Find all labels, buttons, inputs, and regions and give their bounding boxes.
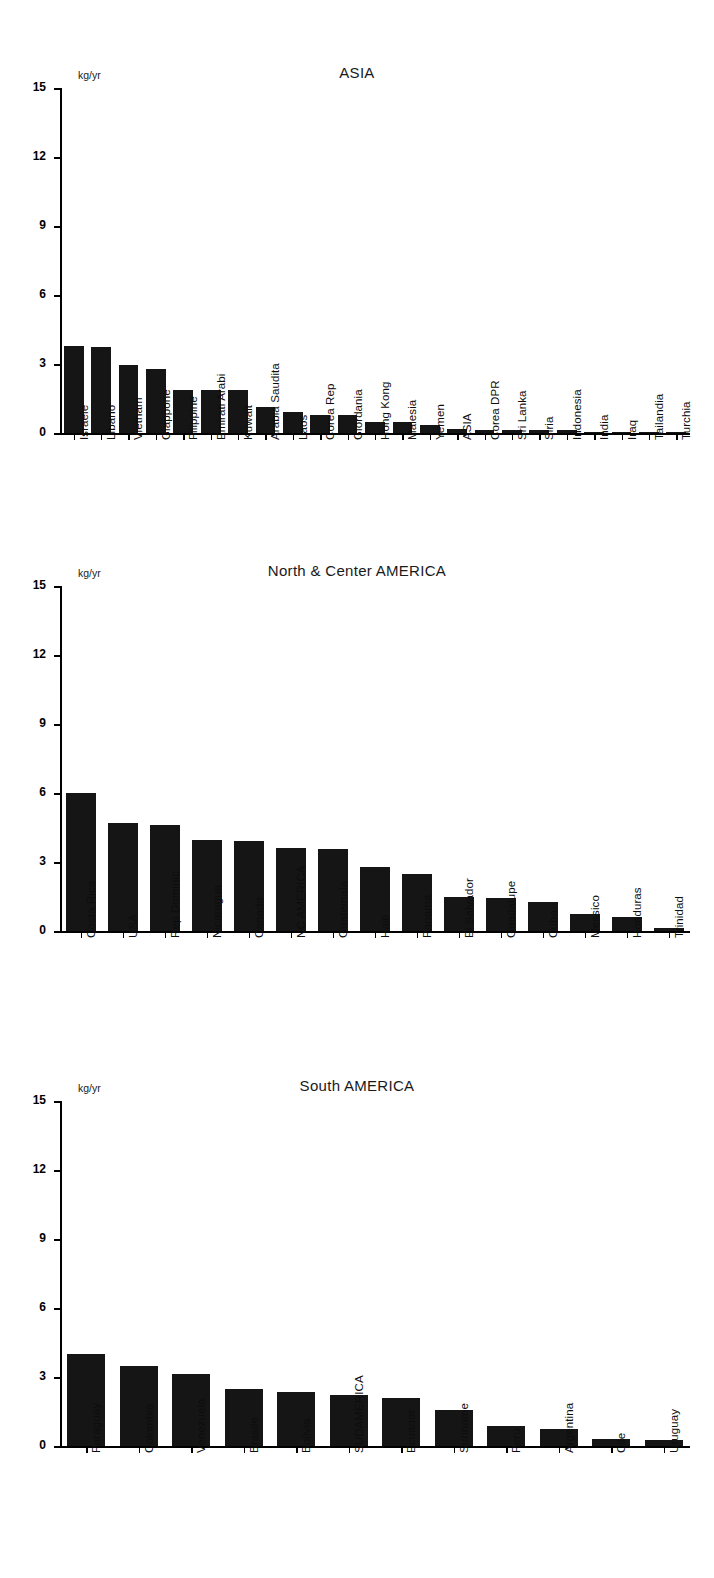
y-axis-tick: [54, 1446, 61, 1448]
x-axis-tick: [512, 434, 513, 440]
chart-title: North & Center AMERICA: [0, 562, 714, 579]
x-axis-tick: [165, 932, 166, 938]
y-axis-line: [60, 586, 62, 932]
x-axis-category-label: Costa Rica: [85, 881, 97, 938]
x-axis-tick: [101, 434, 102, 440]
x-axis-tick: [454, 1447, 455, 1453]
y-axis-tick: [54, 157, 61, 159]
y-axis-tick: [54, 1239, 61, 1241]
x-axis-tick: [249, 932, 250, 938]
y-axis-tick: [54, 931, 61, 933]
x-axis-category-label: Emirati Arabi: [215, 374, 227, 441]
x-axis-tick: [375, 932, 376, 938]
x-axis-tick: [506, 1447, 507, 1453]
x-axis-category-label: Honduras: [631, 887, 643, 938]
x-axis-category-label: Suriname: [458, 1403, 470, 1453]
x-axis-tick: [333, 932, 334, 938]
x-axis-tick: [86, 1447, 87, 1453]
x-axis-tick: [139, 1447, 140, 1453]
x-axis-category-label: Rep Dominic: [169, 871, 181, 938]
x-axis-category-label: Corea Rep: [324, 383, 336, 440]
x-axis-category-label: Canada: [253, 897, 265, 938]
x-axis-tick: [585, 932, 586, 938]
y-axis-tick-label: 0: [8, 923, 46, 937]
x-axis-category-label: Tailandia: [653, 394, 665, 440]
y-axis-tick-label: 3: [8, 1369, 46, 1383]
x-axis-tick: [81, 932, 82, 938]
x-axis-category-label: Kuwait: [242, 405, 254, 440]
x-axis-category-label: Paraguay: [90, 1403, 102, 1453]
x-axis-tick: [622, 434, 623, 440]
x-axis-tick: [459, 932, 460, 938]
x-axis-category-label: Guatemala: [337, 881, 349, 938]
chart-title: South AMERICA: [0, 1077, 714, 1094]
y-axis-tick-label: 12: [8, 1162, 46, 1176]
y-axis-tick: [54, 88, 61, 90]
y-axis-tick-label: 9: [8, 716, 46, 730]
x-axis-category-label: Yemen: [434, 404, 446, 440]
y-axis-tick: [54, 433, 61, 435]
x-axis-tick: [543, 932, 544, 938]
x-axis-category-label: Hong Kong: [379, 382, 391, 440]
x-axis-tick: [594, 434, 595, 440]
x-axis-tick: [123, 932, 124, 938]
x-axis-tick: [293, 434, 294, 440]
x-axis-tick: [485, 434, 486, 440]
x-axis-category-label: Arabia Saudita: [269, 363, 281, 440]
x-axis-tick: [238, 434, 239, 440]
y-axis-line: [60, 1101, 62, 1447]
x-axis-category-label: USA: [127, 914, 139, 938]
y-axis-tick-label: 0: [8, 1438, 46, 1452]
x-axis-tick: [74, 434, 75, 440]
x-axis-tick: [539, 434, 540, 440]
x-axis-category-label: NC AMERICA: [295, 865, 307, 938]
y-axis-tick: [54, 724, 61, 726]
x-axis-tick: [183, 434, 184, 440]
x-axis-tick: [128, 434, 129, 440]
chart-title: ASIA: [0, 64, 714, 81]
y-axis-unit-label: kg/yr: [78, 1082, 101, 1094]
x-axis-category-label: Turchia: [680, 401, 692, 440]
x-axis-category-label: Filippine: [187, 396, 199, 440]
x-axis-category-label: Israele: [78, 405, 90, 440]
x-axis-category-label: Perù: [510, 1428, 522, 1453]
y-axis-unit-label: kg/yr: [78, 69, 101, 81]
x-axis-tick: [211, 434, 212, 440]
x-axis-category-label: Argentina: [563, 1403, 575, 1453]
x-axis-category-label: Ecuador: [405, 1409, 417, 1453]
x-axis-tick: [349, 1447, 350, 1453]
x-axis-category-label: Brasile: [248, 1417, 260, 1453]
x-axis-category-label: India: [598, 415, 610, 440]
x-axis-category-label: Laos: [297, 415, 309, 440]
x-axis-category-label: Bolivia: [300, 1418, 312, 1453]
x-axis-tick: [559, 1447, 560, 1453]
x-axis-category-label: ASIA: [461, 413, 473, 440]
x-axis-tick: [649, 434, 650, 440]
y-axis-tick-label: 3: [8, 356, 46, 370]
x-axis-category-label: Uruguay: [668, 1409, 680, 1453]
x-axis-category-label: Colombia: [143, 1404, 155, 1453]
x-axis-tick: [627, 932, 628, 938]
x-axis-tick: [207, 932, 208, 938]
x-axis-tick: [676, 434, 677, 440]
x-axis-tick: [402, 434, 403, 440]
y-axis-tick: [54, 1377, 61, 1379]
x-axis-tick: [191, 1447, 192, 1453]
x-axis-tick: [501, 932, 502, 938]
y-axis-tick: [54, 655, 61, 657]
y-axis-tick: [54, 862, 61, 864]
x-axis-category-label: Corea DPR: [489, 380, 501, 440]
x-axis-tick: [401, 1447, 402, 1453]
x-axis-tick: [291, 932, 292, 938]
x-axis-category-label: Indonesia: [571, 389, 583, 440]
y-axis-tick-label: 15: [8, 1093, 46, 1107]
x-axis-category-label: Cuba: [547, 910, 559, 938]
y-axis-line: [60, 88, 62, 434]
x-axis-tick: [567, 434, 568, 440]
x-axis-category-label: Giappone: [160, 389, 172, 440]
x-axis-category-label: Malesia: [406, 400, 418, 440]
x-axis-category-label: Giordania: [352, 389, 364, 440]
x-axis-category-label: El Salvador: [463, 878, 475, 938]
x-axis-category-label: Trinidad: [673, 896, 685, 938]
y-axis-tick-label: 15: [8, 578, 46, 592]
